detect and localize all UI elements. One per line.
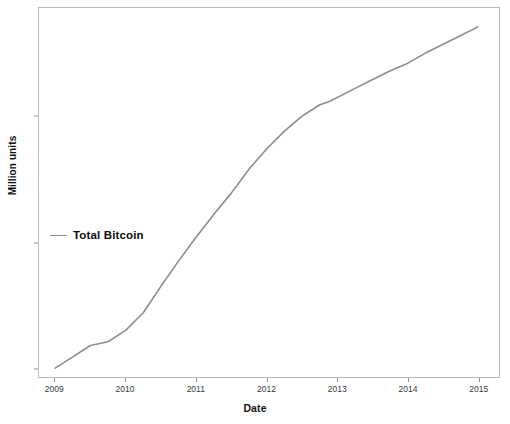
series-line-total-bitcoin xyxy=(55,27,478,368)
x-tick-mark xyxy=(125,378,126,382)
y-tick-mark xyxy=(34,115,38,116)
x-tick-label: 2012 xyxy=(237,384,297,394)
x-tick-mark xyxy=(337,378,338,382)
x-tick-label: 2014 xyxy=(378,384,438,394)
chart-container: 0510 2009201020112012201320142015 Millio… xyxy=(0,0,510,424)
x-tick-mark xyxy=(54,378,55,382)
x-axis-title: Date xyxy=(0,402,510,414)
x-tick-label: 2013 xyxy=(307,384,367,394)
x-tick-label: 2015 xyxy=(449,384,509,394)
x-tick-label: 2011 xyxy=(166,384,226,394)
plot-panel xyxy=(38,7,500,378)
legend-line-swatch-icon xyxy=(50,230,67,241)
x-tick-label: 2009 xyxy=(24,384,84,394)
x-tick-mark xyxy=(479,378,480,382)
x-tick-label: 2010 xyxy=(95,384,155,394)
y-tick-mark xyxy=(34,369,38,370)
plot-area xyxy=(39,8,499,377)
y-tick-mark xyxy=(34,242,38,243)
legend-label-total-bitcoin: Total Bitcoin xyxy=(73,229,144,241)
chart-legend: Total Bitcoin xyxy=(47,227,147,243)
x-tick-mark xyxy=(408,378,409,382)
x-tick-mark xyxy=(267,378,268,382)
x-tick-mark xyxy=(196,378,197,382)
y-axis-title: Million units xyxy=(7,106,18,226)
